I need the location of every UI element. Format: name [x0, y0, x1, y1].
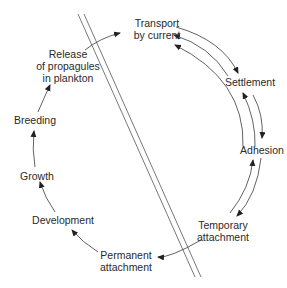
node-breeding: Breeding — [14, 114, 56, 126]
arrow-growth-to-breeding — [33, 131, 35, 167]
node-growth: Growth — [20, 170, 54, 182]
node-settlement: Settlement — [225, 76, 275, 88]
arrow-adhesion-to-transport — [175, 45, 243, 146]
arrow-temporary-to-adhesion — [230, 160, 253, 213]
node-development: Development — [32, 214, 94, 226]
node-transport: Transport by current — [134, 17, 181, 41]
arrow-development-to-growth — [40, 182, 55, 212]
arrow-settlement-to-transport — [174, 35, 228, 76]
arrow-adhesion-to-temporary — [237, 158, 261, 216]
node-release-of-propagules: Release of propagules in plankton — [36, 48, 100, 84]
arrow-adhesion-to-settlement — [243, 93, 255, 147]
node-temporary-attachment: Temporary attachment — [197, 219, 249, 243]
arrow-breeding-to-release — [38, 85, 50, 112]
node-permanent-attachment: Permanent attachment — [100, 249, 152, 273]
life-cycle-diagram: Transport by current Settlement Adhesion… — [0, 0, 287, 288]
arrow-permanent-to-development — [72, 230, 98, 252]
node-adhesion: Adhesion — [240, 144, 284, 156]
